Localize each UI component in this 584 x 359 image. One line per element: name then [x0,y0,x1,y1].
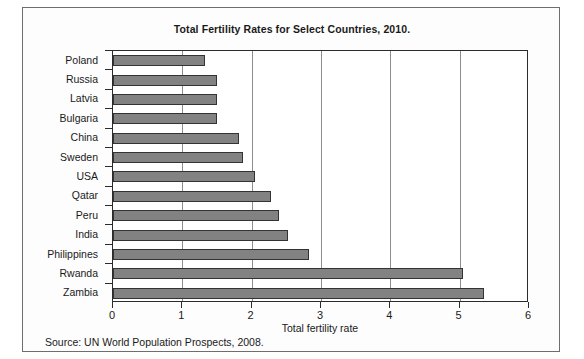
y-tick [105,263,112,264]
bar-row [113,51,529,70]
y-axis-label-china: China [0,131,104,143]
x-axis-label-1: 1 [166,309,196,321]
bar[interactable] [113,94,217,105]
x-tick-4 [389,302,390,308]
bar-row [113,109,529,128]
y-axis-label-peru: Peru [0,209,104,221]
y-tick [105,166,112,167]
y-tick [105,147,112,148]
y-axis-label-bulgaria: Bulgaria [0,112,104,124]
y-axis-label-latvia: Latvia [0,92,104,104]
bar[interactable] [113,55,205,66]
bar[interactable] [113,152,243,163]
y-axis-label-philippines: Philippines [0,248,104,260]
plot-area [112,50,528,302]
y-axis-label-poland: Poland [0,54,104,66]
y-axis-label-zambia: Zambia [0,286,104,298]
bar-series [113,51,527,301]
bar[interactable] [113,191,271,202]
y-tick [105,186,112,187]
x-tick-0 [112,302,113,308]
bar[interactable] [113,113,217,124]
bar[interactable] [113,230,288,241]
y-axis-label-sweden: Sweden [0,151,104,163]
x-axis-label-0: 0 [97,309,127,321]
bar-row [113,225,529,244]
bar-row [113,167,529,186]
y-axis-label-usa: USA [0,170,104,182]
bar-row [113,90,529,109]
x-axis-label-5: 5 [444,309,474,321]
y-axis-label-qatar: Qatar [0,189,104,201]
y-axis-labels: PolandRussiaLatviaBulgariaChinaSwedenUSA… [0,50,104,302]
bar[interactable] [113,75,217,86]
x-axis-label-3: 3 [305,309,335,321]
bar[interactable] [113,288,484,299]
y-tick [105,69,112,70]
y-tick [105,128,112,129]
bar-row [113,284,529,303]
bar-row [113,245,529,264]
y-tick [105,89,112,90]
y-tick [105,224,112,225]
x-tick-1 [181,302,182,308]
y-tick [105,205,112,206]
bar[interactable] [113,171,255,182]
bar[interactable] [113,210,279,221]
chart-figure: Total Fertility Rates for Select Countri… [0,0,584,359]
bar-row [113,129,529,148]
x-axis-title: Total fertility rate [112,322,528,334]
bar-row [113,70,529,89]
x-tick-5 [459,302,460,308]
x-tick-2 [251,302,252,308]
y-tick [105,50,112,51]
y-axis-label-russia: Russia [0,73,104,85]
y-axis-label-india: India [0,228,104,240]
x-tick-3 [320,302,321,308]
chart-title: Total Fertility Rates for Select Countri… [0,23,584,35]
y-axis-label-rwanda: Rwanda [0,267,104,279]
bar-row [113,264,529,283]
y-tick [105,108,112,109]
bar-row [113,187,529,206]
bar-row [113,206,529,225]
x-axis-label-6: 6 [513,309,543,321]
bar[interactable] [113,133,239,144]
bar[interactable] [113,268,463,279]
x-axis-label-4: 4 [374,309,404,321]
y-tick [105,283,112,284]
y-tick [105,244,112,245]
bar-row [113,148,529,167]
source-note: Source: UN World Population Prospects, 2… [45,336,264,348]
x-axis-label-2: 2 [236,309,266,321]
bar[interactable] [113,249,309,260]
x-tick-6 [528,302,529,308]
